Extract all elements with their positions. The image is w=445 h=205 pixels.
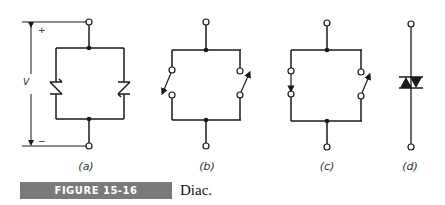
figure-number-bar: FIGURE 15-16	[20, 182, 172, 199]
switch-left-closed-icon	[288, 68, 294, 97]
voltage-label: V	[23, 76, 29, 88]
terminal-top-icon	[86, 19, 92, 25]
four-layer-diode-left-icon	[50, 79, 62, 94]
figure-caption: Diac.	[180, 181, 212, 199]
switch-right-open-icon	[237, 68, 249, 98]
voltage-minus-sign: −	[38, 136, 46, 146]
diac-symbol-icon	[399, 21, 423, 150]
terminal-bottom-icon	[86, 143, 92, 149]
voltage-plus-sign: +	[38, 25, 46, 35]
panel-a-label: (a)	[78, 160, 93, 173]
panel-a-circuit	[22, 19, 124, 149]
diac-figure: + V − (a) (b) (c) (d) FIGURE 15-16 Diac.	[0, 0, 445, 205]
circuit-drawings	[0, 0, 445, 205]
switch-left-open-icon	[163, 67, 175, 98]
panel-b-circuit	[172, 19, 241, 149]
panel-c-circuit	[291, 20, 362, 150]
panel-b-label: (b)	[199, 160, 215, 173]
panel-d-label: (d)	[402, 160, 418, 173]
four-layer-diode-right-icon	[118, 82, 130, 97]
panel-c-label: (c)	[320, 160, 335, 173]
switch-right-open-icon	[358, 69, 369, 99]
